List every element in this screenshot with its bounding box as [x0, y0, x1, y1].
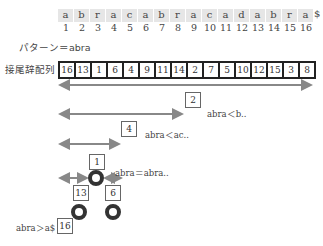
- suffix-array-binary-search-diagram: a b r a c a b r a c a d a b r a $ 1 2 3 …: [0, 0, 323, 246]
- probe-box: 2: [185, 92, 201, 108]
- comparison-note: abra＜b..: [207, 107, 247, 119]
- probe-box: 16: [57, 218, 73, 234]
- search-range-arrows: [0, 0, 323, 246]
- comparison-note: abra＜ac..: [145, 128, 189, 140]
- match-ring-icon: [90, 172, 102, 184]
- match-ring-icon: [107, 206, 119, 218]
- probe-box: 4: [121, 121, 137, 137]
- probe-box: 1: [89, 154, 105, 170]
- comparison-note: abra＝abra..: [115, 166, 169, 178]
- probe-box: 13: [73, 185, 89, 201]
- comparison-note: abra＞a$: [16, 221, 55, 233]
- probe-box: 6: [105, 185, 121, 201]
- match-ring-icon: [73, 206, 85, 218]
